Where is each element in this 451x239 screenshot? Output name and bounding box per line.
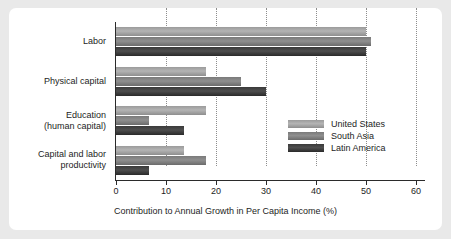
legend-label: United States — [331, 119, 385, 129]
x-tick-mark-20 — [216, 181, 217, 185]
x-axis-line — [115, 180, 425, 181]
x-tick-mark-10 — [166, 181, 167, 185]
bar — [116, 166, 149, 175]
x-tick-mark-60 — [416, 181, 417, 185]
category-label-line: Capital and labor — [0, 149, 106, 160]
bar — [116, 126, 184, 135]
x-tick-label-50: 50 — [346, 186, 386, 196]
legend-swatch — [288, 144, 324, 152]
category-label-line: productivity — [0, 160, 106, 171]
x-tick-label-10: 10 — [146, 186, 186, 196]
category-label-line: Physical capital — [0, 76, 106, 87]
x-tick-mark-50 — [366, 181, 367, 185]
x-tick-mark-0 — [116, 181, 117, 185]
legend-item: South Asia — [288, 130, 386, 141]
x-tick-mark-40 — [316, 181, 317, 185]
chart-panel: 0102030405060 LaborPhysical capitalEduca… — [9, 8, 442, 230]
bar — [116, 87, 266, 96]
legend-item: Latin America — [288, 142, 386, 153]
legend-swatch — [288, 120, 324, 128]
x-tick-label-30: 30 — [246, 186, 286, 196]
x-tick-mark-30 — [266, 181, 267, 185]
category-label-line: Labor — [0, 36, 106, 47]
bar — [116, 37, 371, 46]
legend-item: United States — [288, 118, 386, 129]
category-label-line: Education — [0, 110, 106, 121]
chart-legend: United StatesSouth AsiaLatin America — [288, 118, 386, 154]
x-tick-label-0: 0 — [96, 186, 136, 196]
category-label: Labor — [0, 36, 106, 47]
category-label: Capital and laborproductivity — [0, 149, 106, 171]
x-axis-title: Contribution to Annual Growth in Per Cap… — [9, 206, 442, 216]
category-label: Education(human capital) — [0, 110, 106, 132]
legend-label: Latin America — [331, 143, 386, 153]
bar-group — [116, 27, 416, 56]
bar — [116, 146, 184, 155]
x-tick-label-20: 20 — [196, 186, 236, 196]
category-label-line: (human capital) — [0, 121, 106, 132]
bar — [116, 27, 366, 36]
bar — [116, 106, 206, 115]
legend-swatch — [288, 132, 324, 140]
category-label: Physical capital — [0, 76, 106, 87]
plot-area — [116, 22, 416, 180]
x-tick-label-60: 60 — [396, 186, 436, 196]
x-tick-label-40: 40 — [296, 186, 336, 196]
bar — [116, 67, 206, 76]
bar — [116, 77, 241, 86]
bar — [116, 116, 149, 125]
plot-wrapper: 0102030405060 LaborPhysical capitalEduca… — [9, 8, 442, 230]
gridline-60 — [416, 8, 417, 166]
bar-group — [116, 67, 416, 96]
legend-label: South Asia — [331, 131, 374, 141]
bar — [116, 47, 366, 56]
bar — [116, 156, 206, 165]
